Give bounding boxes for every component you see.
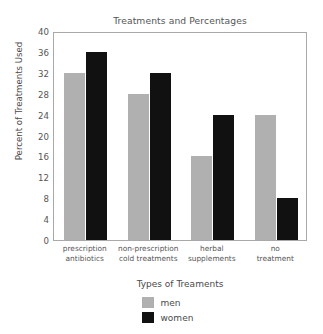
bar-men-3 xyxy=(255,115,276,240)
x-axis-category-line: supplements xyxy=(180,254,244,264)
y-axis-tick-labels: 0481216202428323640 xyxy=(25,32,49,241)
y-axis-tick-label: 24 xyxy=(27,111,49,121)
x-axis-category-line: antibiotics xyxy=(53,254,117,264)
y-axis-tick-label: 4 xyxy=(27,215,49,225)
legend-label: men xyxy=(161,298,219,308)
y-axis-tick-label: 36 xyxy=(27,48,49,58)
x-axis-category-line: herbal xyxy=(180,244,244,254)
legend-item-men: men xyxy=(53,295,307,310)
legend-swatch-icon xyxy=(142,312,154,323)
bar-women-3 xyxy=(277,198,298,240)
chart-legend: menwomen xyxy=(53,295,307,325)
bar-women-0 xyxy=(86,52,107,240)
x-axis-category-line: non-prescription xyxy=(117,244,181,254)
bar-men-2 xyxy=(191,156,212,240)
bar-men-0 xyxy=(64,73,85,240)
x-axis-category-line: no xyxy=(244,244,308,254)
x-axis-category-line: cold treatments xyxy=(117,254,181,264)
y-axis-tick-label: 8 xyxy=(27,194,49,204)
y-axis-tick-label: 40 xyxy=(27,27,49,37)
plot-area xyxy=(53,32,307,241)
chart-title: Treatments and Percentages xyxy=(53,15,307,26)
x-axis-category-label: non-prescriptioncold treatments xyxy=(117,244,181,264)
bar-women-1 xyxy=(150,73,171,240)
bar-men-1 xyxy=(128,94,149,240)
y-axis-title: Percent of Treatments Used xyxy=(14,16,24,186)
bar-women-2 xyxy=(213,115,234,240)
x-axis-category-line: prescription xyxy=(53,244,117,254)
x-axis-category-labels: prescriptionantibioticsnon-prescriptionc… xyxy=(53,244,307,270)
legend-item-women: women xyxy=(53,310,307,325)
y-axis-tick-label: 20 xyxy=(27,132,49,142)
bar-chart-figure: Treatments and Percentages 0481216202428… xyxy=(0,0,323,334)
y-axis-tick-label: 28 xyxy=(27,90,49,100)
bars-layer xyxy=(54,33,306,240)
y-axis-tick-label: 0 xyxy=(27,236,49,246)
x-axis-title: Types of Treaments xyxy=(53,279,307,289)
x-axis-category-label: herbalsupplements xyxy=(180,244,244,264)
x-axis-category-label: prescriptionantibiotics xyxy=(53,244,117,264)
y-axis-tick-label: 32 xyxy=(27,69,49,79)
x-axis-category-label: notreatment xyxy=(244,244,308,264)
x-axis-category-line: treatment xyxy=(244,254,308,264)
y-axis-tick-label: 12 xyxy=(27,173,49,183)
y-axis-tick-label: 16 xyxy=(27,152,49,162)
legend-swatch-icon xyxy=(142,297,154,308)
legend-label: women xyxy=(161,313,219,323)
